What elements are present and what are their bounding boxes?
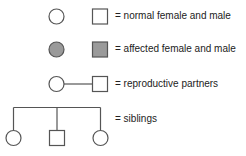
normal-male-icon bbox=[93, 9, 108, 24]
label-siblings: = siblings bbox=[115, 113, 157, 125]
label-partners: = reproductive partners bbox=[115, 78, 218, 90]
sibling-male-icon bbox=[50, 131, 65, 146]
partner-female-icon bbox=[49, 77, 64, 92]
label-affected: = affected female and male bbox=[115, 43, 236, 55]
sibling-female-1-icon bbox=[6, 131, 21, 146]
label-normal: = normal female and male bbox=[115, 10, 231, 22]
normal-female-icon bbox=[49, 9, 64, 24]
partner-male-icon bbox=[93, 77, 108, 92]
affected-female-icon bbox=[49, 42, 64, 57]
affected-male-icon bbox=[93, 42, 108, 57]
sibling-female-2-icon bbox=[93, 131, 108, 146]
